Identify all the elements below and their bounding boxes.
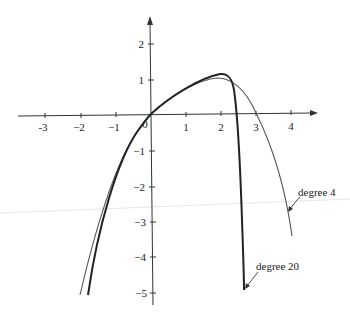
y-tick-label: −2 xyxy=(133,181,145,193)
chart: -3 −2 −1 0 1 2 3 4 2 1 −1 −2 −3 −4 −5 xyxy=(0,0,350,317)
y-tick-label: 1 xyxy=(139,74,145,86)
y-tick-label: −1 xyxy=(133,145,145,157)
annotation-degree-4: degree 4 xyxy=(288,186,336,212)
y-tick-label: 2 xyxy=(139,38,145,50)
annotation-degree-20: degree 20 xyxy=(245,260,300,289)
y-tick-label: −5 xyxy=(135,287,147,299)
x-axis: -3 −2 −1 0 1 2 3 4 xyxy=(18,110,318,133)
degree-20-label: degree 20 xyxy=(256,260,300,272)
x-tick-label: −1 xyxy=(108,121,120,133)
x-tick-label: −2 xyxy=(73,121,85,133)
x-axis-arrow-icon xyxy=(310,110,318,116)
y-tick-label: −4 xyxy=(134,251,146,263)
x-tick-label: 2 xyxy=(218,121,224,133)
x-tick-label: 4 xyxy=(288,120,294,132)
y-axis: 2 1 −1 −2 −3 −4 −5 xyxy=(133,16,156,305)
x-tick-label: 1 xyxy=(183,121,189,133)
degree-4-label: degree 4 xyxy=(298,186,336,198)
x-tick-label: -3 xyxy=(38,121,48,133)
scan-artifact-line xyxy=(0,199,350,213)
arrow-icon xyxy=(245,283,250,289)
x-tick-label: 3 xyxy=(253,121,259,133)
y-tick-label: −3 xyxy=(134,216,146,228)
arrow-icon xyxy=(288,206,293,212)
y-axis-arrow-icon xyxy=(147,16,153,25)
